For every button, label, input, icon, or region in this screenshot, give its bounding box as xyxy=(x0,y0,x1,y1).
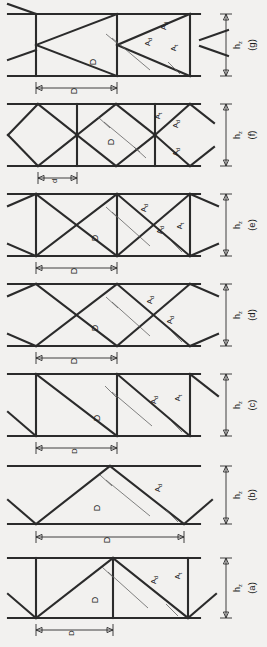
panel-c-web-1 xyxy=(36,374,117,436)
panel-c-dlen-tick-b xyxy=(170,420,182,432)
panel-d-ext-2 xyxy=(8,334,36,346)
panel-f-web-8 xyxy=(116,135,155,166)
panel-e-At: At xyxy=(175,222,185,229)
panel-f-web-3 xyxy=(8,135,38,166)
panel-b-dlen-tick-b xyxy=(166,510,178,522)
svg-text:hz: hz xyxy=(232,131,243,139)
svg-text:hz: hz xyxy=(232,491,243,499)
panel-a-web-2 xyxy=(113,558,188,618)
panel-d-dlen-tick-a xyxy=(106,297,118,308)
panel-c-ext-2 xyxy=(190,374,218,396)
panel-f-web-10 xyxy=(155,135,190,166)
panel-e: D D Ad Ad At hz (e) xyxy=(8,194,257,274)
svg-text:Ad: Ad xyxy=(153,484,163,492)
panel-b-dlen-tick-a xyxy=(100,475,112,486)
panel-d: D D Ad Ad hz (d) xyxy=(8,284,257,364)
panel-g-web-1 xyxy=(36,14,117,45)
panel-b-height-label: hz xyxy=(232,491,243,499)
panel-e-span-label: D xyxy=(69,267,79,274)
panel-g-ext-4 xyxy=(200,46,228,56)
panel-b-web-1 xyxy=(36,466,110,524)
panel-c-diagonal-length-label: D xyxy=(92,414,102,421)
panel-g-ext-1 xyxy=(8,4,36,14)
panel-b-Ad: Ad xyxy=(153,484,163,492)
panel-g-span-label: D xyxy=(69,87,79,94)
svg-text:Ad: Ad xyxy=(143,38,153,46)
figure-canvas: D D Ad Ad At hz (g) xyxy=(0,0,267,647)
panel-f-diagonal-length-label: D xyxy=(106,138,116,145)
svg-text:Ad: Ad xyxy=(171,120,181,128)
panel-e-height-label: hz xyxy=(232,221,243,229)
panel-g-Ad-1: Ad xyxy=(143,38,153,46)
panel-f-ext-1 xyxy=(190,104,214,123)
panel-c-ext-1 xyxy=(8,412,36,436)
panel-e-ext-4 xyxy=(190,244,218,256)
panel-f-web-2 xyxy=(38,104,77,135)
panel-d-ext-1 xyxy=(8,284,36,296)
panel-f-dlen-tick-a xyxy=(98,117,110,128)
panel-c-Ad: Ad xyxy=(149,396,159,404)
svg-text:Ad: Ad xyxy=(159,22,169,30)
panel-b-span-label: D xyxy=(102,536,112,543)
panel-e-dlen-tick-b xyxy=(170,240,182,252)
panel-f-letter: (f) xyxy=(246,131,257,140)
panel-a-height-label: hz xyxy=(232,584,243,592)
svg-text:At: At xyxy=(173,572,183,579)
panel-d-span-label: D xyxy=(69,357,79,364)
svg-text:hz: hz xyxy=(232,584,243,592)
panel-b: D D Ad hz (b) xyxy=(8,466,257,543)
svg-text:hz: hz xyxy=(232,221,243,229)
panel-g-letter: (g) xyxy=(246,39,257,51)
panel-b-ext-2 xyxy=(184,500,212,524)
panel-a-web-1 xyxy=(36,558,113,618)
panel-c: D D Ad At hz (c) xyxy=(8,374,257,454)
panel-f-Ad-1: Ad xyxy=(171,120,181,128)
panel-g-height-label: hz xyxy=(232,41,243,49)
panel-g-web-3 xyxy=(117,14,190,45)
panel-c-dlen-tick-a xyxy=(105,386,117,398)
panel-c-At: At xyxy=(173,394,183,401)
svg-text:Ad: Ad xyxy=(149,396,159,404)
svg-text:Ad: Ad xyxy=(139,204,149,212)
svg-text:Ad: Ad xyxy=(145,296,155,304)
panel-f-ext-2 xyxy=(190,147,214,166)
panel-g-ext-3 xyxy=(200,30,228,40)
panel-a-At: At xyxy=(173,572,183,579)
panel-d-diagonal-length-label: D xyxy=(90,324,100,331)
panel-d-letter: (d) xyxy=(246,309,257,321)
panel-g-At: At xyxy=(169,44,179,51)
panel-f-web-6 xyxy=(116,104,155,135)
panel-e-letter: (e) xyxy=(246,219,257,231)
svg-text:At: At xyxy=(175,222,185,229)
panel-a-span-label: D xyxy=(67,630,76,636)
panel-g-Ad-2: Ad xyxy=(159,22,169,30)
panel-c-height-label: hz xyxy=(232,401,243,409)
panel-c-span-label: D xyxy=(70,448,79,454)
panel-d-Ad-1: Ad xyxy=(145,296,155,304)
panel-b-dlen-leader xyxy=(106,480,150,516)
panel-f-web-4 xyxy=(38,135,77,166)
panel-g-web-4 xyxy=(117,45,190,76)
panel-b-web-2 xyxy=(110,466,184,524)
panel-d-dlen-tick-b xyxy=(170,330,182,342)
panel-e-diagonal-length-label: D xyxy=(90,234,100,241)
panel-g: D D Ad Ad At hz (g) xyxy=(8,4,257,94)
panel-g-web-2 xyxy=(36,45,117,76)
svg-text:Ad: Ad xyxy=(165,316,175,324)
panel-f: d D At Ad Ad hz (f) xyxy=(8,104,257,184)
panel-d-Ad-2: Ad xyxy=(165,316,175,324)
panel-d-ext-3 xyxy=(190,284,218,296)
panel-a: D D Ad At hz (a) xyxy=(8,558,257,636)
panel-g-diagonal-length-label: D xyxy=(88,58,98,65)
panel-f-web-5 xyxy=(77,104,116,135)
svg-text:At: At xyxy=(173,394,183,401)
truss-configurations-figure: D D Ad Ad At hz (g) xyxy=(0,0,267,647)
panel-a-ext-1 xyxy=(8,594,36,618)
panel-f-web-1 xyxy=(8,104,38,135)
panel-b-diagonal-length-label: D xyxy=(92,504,102,511)
panel-a-Ad: Ad xyxy=(149,576,159,584)
panel-b-letter: (b) xyxy=(246,489,257,501)
svg-text:hz: hz xyxy=(232,41,243,49)
svg-text:hz: hz xyxy=(232,311,243,319)
svg-text:Ad: Ad xyxy=(149,576,159,584)
